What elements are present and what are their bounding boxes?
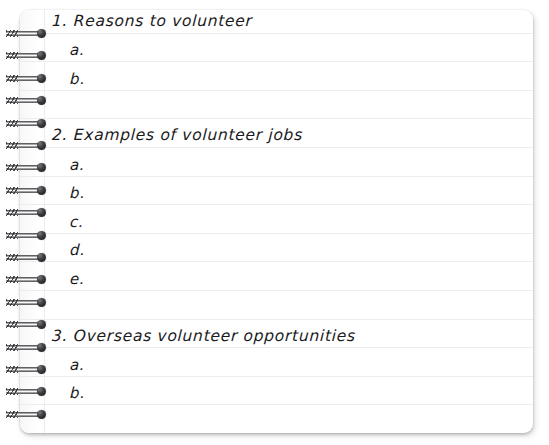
outline-subitem-row: a. xyxy=(20,33,533,62)
outline-subitem-text: b. xyxy=(70,386,86,401)
binding-ring xyxy=(6,410,46,419)
binding-ring xyxy=(6,387,46,396)
outline-subitem-text: e. xyxy=(70,272,86,287)
binding-ring-tail xyxy=(6,187,18,194)
binding-ring-cap xyxy=(37,387,46,396)
outline-subitem-text: d. xyxy=(70,243,86,258)
binding-ring-tail xyxy=(6,142,18,149)
spiral-notebook: 1. Reasons to volunteera.b.2. Examples o… xyxy=(0,0,549,445)
binding-ring-cap xyxy=(37,253,46,262)
binding-ring-tail xyxy=(6,120,18,127)
binding-ring-cap xyxy=(37,320,46,329)
binding-ring-tail xyxy=(6,164,18,171)
binding-ring xyxy=(6,96,46,105)
binding-ring-tail xyxy=(6,30,18,37)
binding-ring-tail xyxy=(6,209,18,216)
outline-heading-row: 2. Examples of volunteer jobs xyxy=(20,118,533,147)
outline-subitem-row: b. xyxy=(20,61,533,90)
binding-ring xyxy=(6,163,46,172)
binding-ring-tail xyxy=(6,366,18,373)
binding-ring-tail xyxy=(6,299,18,306)
binding-ring xyxy=(6,298,46,307)
outline-subitem-row: a. xyxy=(20,147,533,176)
binding-ring-tail xyxy=(6,344,18,351)
binding-ring-cap xyxy=(37,96,46,105)
outline-subitem-row: b. xyxy=(20,376,533,405)
binding-ring-tail xyxy=(6,411,18,418)
outline-subitem-row: e. xyxy=(20,261,533,290)
binding-ring-cap xyxy=(37,231,46,240)
outline-subitem-text: a. xyxy=(70,43,86,58)
binding-ring xyxy=(6,74,46,83)
binding-ring xyxy=(6,119,46,128)
outline-subitem-row: d. xyxy=(20,233,533,262)
binding-ring-cap xyxy=(37,119,46,128)
binding-ring-tail xyxy=(6,388,18,395)
outline-heading-text: 3. Overseas volunteer opportunities xyxy=(52,329,357,345)
spiral-binding xyxy=(0,0,52,445)
binding-ring-tail xyxy=(6,232,18,239)
binding-ring-cap xyxy=(37,29,46,38)
binding-ring xyxy=(6,51,46,60)
outline-subitem-text: b. xyxy=(70,72,86,87)
notebook-page[interactable]: 1. Reasons to volunteera.b.2. Examples o… xyxy=(20,10,533,433)
binding-ring xyxy=(6,186,46,195)
binding-ring xyxy=(6,343,46,352)
binding-ring-tail xyxy=(6,52,18,59)
binding-ring-tail xyxy=(6,276,18,283)
outline-blank-row xyxy=(20,90,533,119)
outline-blank-row xyxy=(20,290,533,319)
binding-ring xyxy=(6,141,46,150)
outline-subitem-text: c. xyxy=(70,215,85,230)
binding-ring xyxy=(6,253,46,262)
binding-ring xyxy=(6,320,46,329)
binding-ring-cap xyxy=(37,163,46,172)
binding-ring-cap xyxy=(37,365,46,374)
binding-ring xyxy=(6,29,46,38)
outline-subitem-row: c. xyxy=(20,204,533,233)
outline-blank-row xyxy=(20,404,533,433)
binding-ring-tail xyxy=(6,321,18,328)
binding-ring-tail xyxy=(6,75,18,82)
binding-ring-tail xyxy=(6,254,18,261)
binding-ring-cap xyxy=(37,74,46,83)
binding-ring-cap xyxy=(37,275,46,284)
outline-subitem-text: b. xyxy=(70,186,86,201)
outline-subitem-row: a. xyxy=(20,347,533,376)
binding-ring-cap xyxy=(37,51,46,60)
binding-ring-cap xyxy=(37,208,46,217)
binding-ring-tail xyxy=(6,97,18,104)
binding-ring xyxy=(6,208,46,217)
binding-ring xyxy=(6,231,46,240)
outline-heading-row: 3. Overseas volunteer opportunities xyxy=(20,319,533,348)
outline-subitem-row: b. xyxy=(20,176,533,205)
binding-ring xyxy=(6,275,46,284)
handwritten-outline: 1. Reasons to volunteera.b.2. Examples o… xyxy=(20,10,533,433)
binding-ring-cap xyxy=(37,186,46,195)
binding-ring xyxy=(6,365,46,374)
outline-subitem-text: a. xyxy=(70,158,86,173)
outline-heading-text: 2. Examples of volunteer jobs xyxy=(52,128,304,144)
binding-ring-cap xyxy=(37,343,46,352)
outline-heading-text: 1. Reasons to volunteer xyxy=(52,14,253,30)
outline-subitem-text: a. xyxy=(70,358,86,373)
binding-ring-cap xyxy=(37,298,46,307)
binding-ring-cap xyxy=(37,141,46,150)
binding-ring-cap xyxy=(37,410,46,419)
outline-heading-row: 1. Reasons to volunteer xyxy=(20,10,533,33)
